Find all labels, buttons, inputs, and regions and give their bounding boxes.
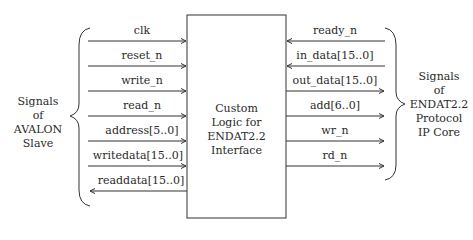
signal-label-rd-n: rd_n [323,150,348,162]
signal-label-add: add[6..0] [310,100,360,112]
left-group-title-line: Slave [10,137,66,151]
signal-label-ready-n: ready_n [313,25,357,37]
left-group-title-line: AVALON [10,123,66,137]
signal-label-out-data: out_data[15..0] [293,75,378,87]
signal-label-writedata: writedata[15..0] [93,150,183,162]
right-group-title-line: Signals [409,70,469,84]
right-group-title-line: IP Core [409,126,469,140]
left-group-title: Signals of AVALON Slave [10,95,66,151]
signal-label-clk: clk [134,25,150,37]
left-group-title-line: of [10,109,66,123]
left-group-title-line: Signals [10,95,66,109]
signal-label-reset-n: reset_n [122,50,163,62]
signal-label-in-data: in_data[15..0] [296,50,373,62]
right-group-title: Signals of ENDAT2.2 Protocol IP Core [409,70,469,140]
right-group-title-line: ENDAT2.2 [409,98,469,112]
signal-label-address: address[5..0] [105,125,178,137]
custom-logic-label-line: ENDAT2.2 [187,130,286,144]
signal-label-read-n: read_n [123,100,161,112]
custom-logic-label: Custom Logic for ENDAT2.2 Interface [187,102,286,158]
custom-logic-label-line: Interface [187,144,286,158]
left-signal-arrows [88,41,187,191]
left-brace [70,28,90,206]
right-brace [385,28,405,180]
custom-logic-label-line: Logic for [187,116,286,130]
right-group-title-line: Protocol [409,112,469,126]
signal-label-readdata: readdata[15..0] [98,175,185,187]
right-group-title-line: of [409,84,469,98]
signal-label-write-n: write_n [121,75,163,87]
signal-label-wr-n: wr_n [321,125,348,137]
custom-logic-label-line: Custom [187,102,286,116]
